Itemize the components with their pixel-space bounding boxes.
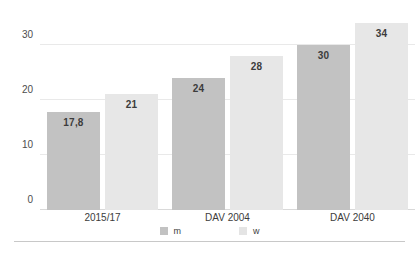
bar-w-2015-17[interactable]: 21 — [105, 94, 158, 210]
y-axis-tick-0: 0 — [27, 194, 33, 205]
x-axis-labels: 2015/17 DAV 2004 DAV 2040 — [40, 212, 415, 223]
bar-group-dav-2004: 24 28 — [165, 12, 290, 210]
footer-divider — [14, 241, 405, 242]
legend-swatch-icon-m — [160, 227, 168, 235]
x-axis-label-dav-2004: DAV 2004 — [165, 212, 290, 223]
legend-item-m[interactable]: m — [160, 226, 182, 236]
y-axis-tick-10: 10 — [22, 139, 33, 150]
x-axis-label-2015-17: 2015/17 — [40, 212, 165, 223]
bar-m-dav-2004[interactable]: 24 — [172, 78, 225, 210]
bar-m-dav-2040[interactable]: 30 — [297, 45, 350, 210]
bar-value-label: 24 — [172, 83, 225, 94]
bar-w-dav-2040[interactable]: 34 — [355, 23, 408, 210]
legend-swatch-icon-w — [239, 227, 247, 235]
bar-chart: 30 20 10 0 17,8 21 24 28 — [0, 0, 419, 255]
bar-value-label: 34 — [355, 28, 408, 39]
x-axis-label-dav-2040: DAV 2040 — [290, 212, 415, 223]
bar-w-dav-2004[interactable]: 28 — [230, 56, 283, 210]
bar-m-2015-17[interactable]: 17,8 — [47, 112, 100, 210]
bar-value-label: 21 — [105, 99, 158, 110]
chart-legend: m w — [0, 226, 419, 236]
bar-value-label: 28 — [230, 61, 283, 72]
legend-label-w: w — [253, 226, 260, 236]
bar-value-label: 17,8 — [47, 117, 100, 128]
bar-groups: 17,8 21 24 28 30 34 — [40, 12, 415, 210]
y-axis-tick-20: 20 — [22, 84, 33, 95]
bar-group-dav-2040: 30 34 — [290, 12, 415, 210]
plot-area: 30 20 10 0 17,8 21 24 28 — [40, 12, 415, 210]
legend-label-m: m — [174, 226, 182, 236]
bar-group-2015-17: 17,8 21 — [40, 12, 165, 210]
legend-item-w[interactable]: w — [239, 226, 260, 236]
bar-value-label: 30 — [297, 50, 350, 61]
y-axis-tick-30: 30 — [22, 29, 33, 40]
